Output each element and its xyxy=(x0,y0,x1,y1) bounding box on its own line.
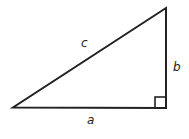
right-triangle-diagram: c b a xyxy=(0,0,189,139)
triangle-shape xyxy=(13,8,166,108)
horizontal-leg-label: a xyxy=(87,113,94,127)
vertical-leg-label: b xyxy=(173,60,181,74)
hypotenuse-label: c xyxy=(81,36,88,50)
right-angle-marker xyxy=(155,97,166,108)
